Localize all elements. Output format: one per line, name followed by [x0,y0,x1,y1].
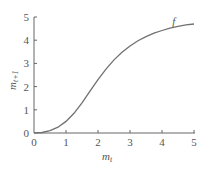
x-tick-label: 4 [159,136,165,148]
y-tick-label: 2 [24,81,30,93]
curve-label: f [172,15,177,27]
x-tick-label: 2 [95,136,101,148]
x-tick-label: 5 [191,136,197,148]
y-tick-label: 3 [24,57,30,69]
x-tick-label: 3 [127,136,133,148]
y-tick-label: 5 [24,11,30,23]
x-tick-label: 0 [31,136,37,148]
x-axis-label: mt [102,150,113,164]
y-tick-label: 0 [24,127,30,139]
x-tick-label: 1 [63,136,69,148]
y-axis-label: mt+1 [6,70,20,90]
y-tick-label: 4 [24,34,30,46]
y-tick-label: 1 [24,104,30,116]
curve-f [34,24,194,133]
chart: 012345012345fmtmt+1 [0,0,206,169]
